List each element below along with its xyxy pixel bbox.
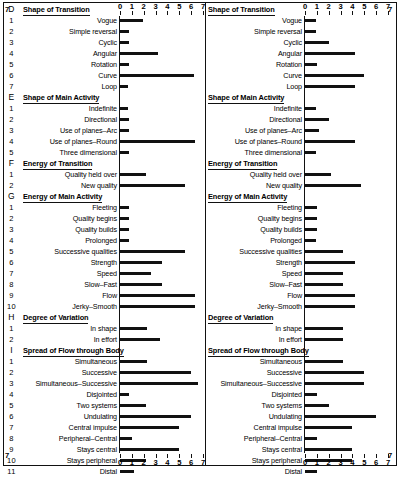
bar-row: Successive qualities: [206, 246, 397, 257]
bar-row: Three dimensional: [3, 147, 205, 158]
bar: [305, 448, 352, 451]
bar-label: Indefinite: [206, 103, 302, 114]
axis-ticks-top: 01234567: [305, 3, 394, 15]
axis-tick-label: 3: [337, 3, 345, 11]
bar-label: Indefinite: [3, 103, 117, 114]
bar-row: Simultaneous: [206, 356, 397, 367]
bar-label: Fleeting: [206, 202, 302, 213]
bar: [305, 140, 355, 143]
axis-tick-label: 3: [152, 3, 160, 11]
bar: [120, 393, 129, 396]
bar: [120, 239, 129, 242]
bar: [305, 118, 329, 121]
bar-label: Peripheral–Central: [3, 433, 117, 444]
bar-label: Stays peripheral: [206, 455, 302, 466]
bar-row: Simple reversal: [3, 26, 205, 37]
axis-tick-mark: [352, 11, 353, 15]
axis-tick-mark: [132, 454, 133, 458]
bar-row: Rotation: [3, 59, 205, 70]
bar: [120, 19, 143, 22]
bar: [305, 239, 316, 242]
bar-label: Speed: [3, 268, 117, 279]
bar-label: Central impulse: [3, 422, 117, 433]
bar-row: Fleeting: [206, 202, 397, 213]
bar-row: Quality builds: [3, 224, 205, 235]
bar-label: Use of planes–Arc: [206, 125, 302, 136]
axis-tick-label: 2: [325, 3, 333, 11]
axis-tick-mark: [179, 454, 180, 458]
bar: [305, 283, 343, 286]
bar-label: Use of planes–Arc: [3, 125, 117, 136]
bar-row: Flow: [206, 290, 397, 301]
bar-row: Quality held over: [206, 169, 397, 180]
bar-label: Simple reversal: [3, 26, 117, 37]
bar-row: New quality: [206, 180, 397, 191]
bar-row: Simple reversal: [206, 26, 397, 37]
bar: [120, 426, 179, 429]
axis-tick-label: 5: [360, 3, 368, 11]
bar-label: Distal: [206, 466, 302, 477]
bar: [120, 151, 129, 154]
bar: [120, 63, 129, 66]
bar-label: Stays central: [3, 444, 117, 455]
bar-label: Prolonged: [3, 235, 117, 246]
bar-label: Stays central: [206, 444, 302, 455]
bar: [305, 107, 316, 110]
bar-row: Peripheral–Central: [3, 433, 205, 444]
bar: [305, 85, 355, 88]
bar-label: Cyclic: [206, 37, 302, 48]
bar-row: Loop: [3, 81, 205, 92]
bar-row: In effort: [3, 334, 205, 345]
bar: [305, 382, 364, 385]
bar-label: Successive qualities: [206, 246, 302, 257]
axis-tick-mark: [167, 11, 168, 15]
axis-tick-label: 4: [163, 3, 171, 11]
bar-row: Jerky–Smooth: [3, 301, 205, 312]
bar-row: Strength: [3, 257, 205, 268]
bar-label: Quality builds: [3, 224, 117, 235]
bar-label: Curve: [3, 70, 117, 81]
bar-row: Peripheral–Central: [206, 433, 397, 444]
bar-row: In shape: [3, 323, 205, 334]
bar-label: Angular: [206, 48, 302, 59]
bar-row: Quality begins: [3, 213, 205, 224]
bar-label: Loop: [3, 81, 117, 92]
bar: [305, 30, 316, 33]
bar: [305, 437, 317, 440]
bar-label: Central impulse: [206, 422, 302, 433]
bar-row: Directional: [206, 114, 397, 125]
bar-row: Flow: [3, 290, 205, 301]
axis-tick-mark: [120, 454, 121, 458]
bar-row: Angular: [206, 48, 397, 59]
bar-label: Three dimensional: [206, 147, 302, 158]
axis-tick-label: 6: [372, 3, 380, 11]
bar: [305, 294, 355, 297]
bar: [120, 206, 129, 209]
bar: [120, 305, 195, 308]
bar-row: Curve: [206, 70, 397, 81]
axis-tick-mark: [317, 11, 318, 15]
bar-label: Successive qualities: [3, 246, 117, 257]
bar: [305, 470, 317, 473]
bar-row: Prolonged: [206, 235, 397, 246]
right-panel: Shape of TransitionVogueSimple reversalC…: [206, 2, 397, 466]
bar-row: Strength: [206, 257, 397, 268]
bar-row: Use of planes–Round: [206, 136, 397, 147]
bar: [120, 140, 195, 143]
bar-row: Simultaneous–Successive: [206, 378, 397, 389]
left-panel-rows: Shape of TransitionVogueSimple reversalC…: [3, 2, 205, 466]
bar-label: Peripheral–Central: [206, 433, 302, 444]
bar: [305, 206, 317, 209]
axis-tick-label: 0: [301, 3, 309, 11]
bar-row: Use of planes–Arc: [3, 125, 205, 136]
bar-label: Slow–Fast: [3, 279, 117, 290]
bar: [305, 52, 355, 55]
axis-ticks-bottom: 01234567: [305, 454, 394, 466]
axis-tick-label: 0: [301, 459, 309, 467]
bar-row: Speed: [206, 268, 397, 279]
axis-tick-mark: [341, 454, 342, 458]
bar-row: Central impulse: [206, 422, 397, 433]
bar-row: Simultaneous: [3, 356, 205, 367]
bar-row: Undulating: [3, 411, 205, 422]
axis-tick-label: 6: [372, 459, 380, 467]
